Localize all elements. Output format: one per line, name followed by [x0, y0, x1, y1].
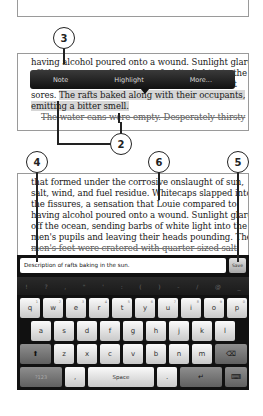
key-h[interactable]: h [146, 321, 166, 341]
reading-panel-top: having alcohol poured onto a wound. Sunl… [17, 53, 249, 131]
text-line: having alcohol poured onto a wound. Sunl… [31, 57, 236, 68]
key-label: u [166, 304, 170, 312]
symbol-key[interactable]: ) [158, 283, 160, 290]
enter-key[interactable]: ↵ [180, 367, 222, 387]
key-alt-label: 5 [128, 292, 130, 312]
text-line: men's feet were cratered with quarter-si… [31, 243, 236, 254]
key-a[interactable]: a [31, 321, 51, 341]
key-n[interactable]: n [169, 344, 189, 364]
key-alt-label: 8 [197, 292, 199, 312]
text-line: emitting a bitter smell. [31, 101, 236, 112]
key-alt-label: 7 [174, 292, 176, 312]
space-key[interactable]: Space [88, 367, 154, 387]
symbol-key[interactable]: ( [139, 283, 141, 290]
symbol-key[interactable]: _ [238, 283, 241, 290]
key-o[interactable]: o9 [204, 298, 224, 318]
symbol-key[interactable]: / [196, 283, 198, 290]
key-c[interactable]: c [100, 344, 120, 364]
text-line: men's pupils and leaving their heads pou… [31, 232, 236, 243]
key-label: w [50, 304, 56, 312]
book-text[interactable]: that formed under the corrosive onslaugh… [31, 177, 236, 254]
symbol-key[interactable]: ? [44, 283, 47, 290]
key-label: p [235, 304, 239, 312]
text-line: sores. The rafts baked along with their … [31, 90, 236, 101]
key-t[interactable]: t5 [112, 298, 132, 318]
comma-key[interactable]: , [65, 367, 85, 387]
callout-line [57, 143, 111, 145]
symbol-key[interactable]: ' [102, 283, 104, 290]
symbol-key[interactable]: " [83, 283, 86, 290]
text-line: the fissures, a sensation that Louie com… [31, 199, 236, 210]
shift-key[interactable]: ⬆ [20, 344, 51, 364]
selection-start-handle[interactable] [57, 101, 59, 111]
text-line: The water cans were empty. Desperately t… [31, 112, 236, 123]
key-k[interactable]: k [192, 321, 212, 341]
key-m[interactable]: m [192, 344, 212, 364]
popup-pointer-icon [140, 88, 150, 94]
key-e[interactable]: e3 [66, 298, 86, 318]
highlighted-text[interactable]: The rafts baked along with their occupan… [59, 90, 245, 100]
key-u[interactable]: u7 [158, 298, 178, 318]
key-alt-label: 4 [105, 292, 107, 312]
key-i[interactable]: i8 [181, 298, 201, 318]
book-text[interactable]: having alcohol poured onto a wound. Sunl… [31, 57, 236, 123]
key-alt-label: 1 [36, 292, 38, 312]
callout-line [158, 172, 160, 200]
key-label: y [143, 304, 147, 312]
symbol-key[interactable]: , [64, 283, 66, 290]
callout-4: 4 [26, 151, 48, 173]
symbol-suggestion-row: ! ? , " ' : ( ) - / @ _ [17, 277, 249, 295]
on-screen-keyboard: ! ? , " ' : ( ) - / @ _ q1 w2 e3 r4 t5 y… [17, 277, 249, 390]
callout-line [63, 48, 65, 64]
key-v[interactable]: v [123, 344, 143, 364]
key-x[interactable]: x [77, 344, 97, 364]
callout-line [57, 111, 59, 144]
highlighted-text[interactable]: emitting a bitter smell. [31, 101, 129, 111]
key-alt-label: 9 [220, 292, 222, 312]
previous-page-panel [17, 0, 249, 17]
key-label: t [121, 304, 124, 312]
key-l[interactable]: l [215, 321, 235, 341]
callout-2: 2 [110, 133, 132, 155]
hide-keyboard-key[interactable]: ⌨ [225, 367, 247, 387]
key-q[interactable]: q1 [20, 298, 40, 318]
backspace-key[interactable]: ⌫ [215, 344, 247, 364]
callout-line [36, 172, 38, 262]
key-alt-label: 0 [243, 292, 245, 312]
callout-5: 5 [227, 151, 249, 173]
text-line: having alcohol poured onto a wound. Sunl… [31, 210, 236, 221]
key-p[interactable]: p0 [227, 298, 247, 318]
key-label: e [74, 304, 78, 312]
text-line: that formed under the corrosive onslaugh… [31, 177, 236, 188]
callout-3: 3 [53, 27, 75, 49]
key-label: o [212, 304, 216, 312]
key-r[interactable]: r4 [89, 298, 109, 318]
note-input[interactable]: Description of rafts baking in the sun. [20, 258, 226, 273]
key-s[interactable]: s [54, 321, 74, 341]
note-menu-item[interactable]: Note [53, 76, 68, 84]
key-d[interactable]: d [77, 321, 97, 341]
symbol-key[interactable]: ! [25, 283, 27, 290]
key-f[interactable]: f [100, 321, 120, 341]
key-b[interactable]: b [146, 344, 166, 364]
key-z[interactable]: z [54, 344, 74, 364]
text-line: off the ocean, sending barbs of white li… [31, 221, 236, 232]
key-alt-label: 2 [59, 292, 61, 312]
key-g[interactable]: g [123, 321, 143, 341]
key-alt-label: 6 [151, 292, 153, 312]
callout-line [237, 172, 239, 262]
key-w[interactable]: w2 [43, 298, 63, 318]
selection-popup-menu: Note Highlight More... [30, 70, 235, 89]
key-j[interactable]: j [169, 321, 189, 341]
symbol-key[interactable]: @ [215, 283, 221, 290]
symbol-key[interactable]: - [177, 283, 179, 290]
note-entry-bar: Description of rafts baking in the sun. … [17, 255, 249, 277]
symbols-key[interactable]: ?123 [20, 367, 62, 387]
symbol-key[interactable]: : [121, 283, 123, 290]
key-y[interactable]: y6 [135, 298, 155, 318]
text-fragment: sores. [31, 90, 59, 100]
period-key[interactable]: . [157, 367, 177, 387]
key-alt-label: 3 [82, 292, 84, 312]
more-menu-item[interactable]: More... [190, 76, 212, 84]
highlight-menu-item[interactable]: Highlight [114, 76, 143, 84]
